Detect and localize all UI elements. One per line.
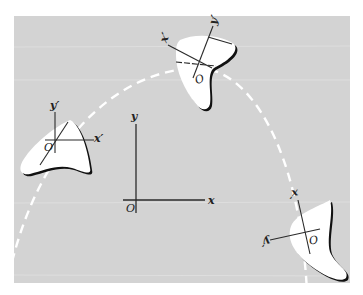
x-axis-label: x: [207, 194, 215, 207]
rigid-body-motion-diagram: y x O y′ x′ O y′ x′ O x′ y′ O: [0, 0, 363, 295]
body-origin-label: O: [44, 141, 53, 154]
body-x-label: x′: [93, 132, 104, 145]
origin-label: O: [126, 202, 135, 215]
body-y-label: y′: [49, 99, 59, 112]
